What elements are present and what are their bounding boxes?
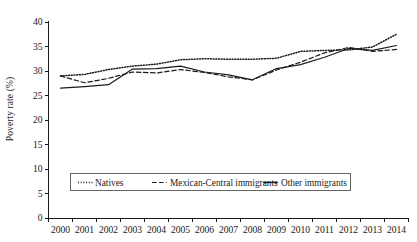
chart-plot-area: 0510152025303540 20002001200220032004200… xyxy=(0,0,417,242)
x-tick-label: 2001 xyxy=(75,224,94,235)
x-tick-label: 2006 xyxy=(195,224,214,235)
x-tick-label: 2014 xyxy=(387,224,406,235)
legend-label: Other immigrants xyxy=(281,178,347,188)
chart-legend: NativesMexican-Central immigrantsOther i… xyxy=(71,174,351,191)
y-tick-label: 5 xyxy=(38,188,43,199)
y-axis-title: Poverty rate (%) xyxy=(2,0,18,218)
x-tick-label: 2003 xyxy=(123,224,142,235)
x-tick-label: 2005 xyxy=(171,224,190,235)
y-tick-label: 30 xyxy=(33,65,43,76)
x-tick-label: 2011 xyxy=(315,224,334,235)
y-tick-label: 35 xyxy=(33,41,43,52)
series-line-natives xyxy=(61,34,397,76)
y-axis-ticks: 0510152025303540 xyxy=(33,16,49,223)
legend-label: Natives xyxy=(95,178,124,188)
x-tick-label: 2008 xyxy=(243,224,262,235)
legend-label: Mexican-Central immigrants xyxy=(170,178,278,188)
y-tick-label: 0 xyxy=(38,212,43,223)
series-line-mexican-central-immigrants xyxy=(61,47,397,82)
x-tick-label: 2004 xyxy=(147,224,166,235)
x-axis-ticks: 2000200120022003200420052006200720082009… xyxy=(49,218,409,235)
x-tick-label: 2002 xyxy=(99,224,118,235)
data-series-group xyxy=(61,34,397,88)
x-tick-label: 2012 xyxy=(339,224,358,235)
x-tick-label: 2013 xyxy=(363,224,382,235)
y-tick-label: 15 xyxy=(33,139,43,150)
y-tick-label: 25 xyxy=(33,90,43,101)
x-tick-label: 2009 xyxy=(267,224,286,235)
y-tick-label: 10 xyxy=(33,163,43,174)
y-tick-label: 40 xyxy=(33,16,43,27)
series-line-other-immigrants xyxy=(61,46,397,89)
x-tick-label: 2007 xyxy=(219,224,238,235)
poverty-rate-line-chart: Poverty rate (%) 0510152025303540 200020… xyxy=(0,0,417,242)
x-tick-label: 2000 xyxy=(51,224,70,235)
y-tick-label: 20 xyxy=(33,114,43,125)
x-tick-label: 2010 xyxy=(291,224,310,235)
